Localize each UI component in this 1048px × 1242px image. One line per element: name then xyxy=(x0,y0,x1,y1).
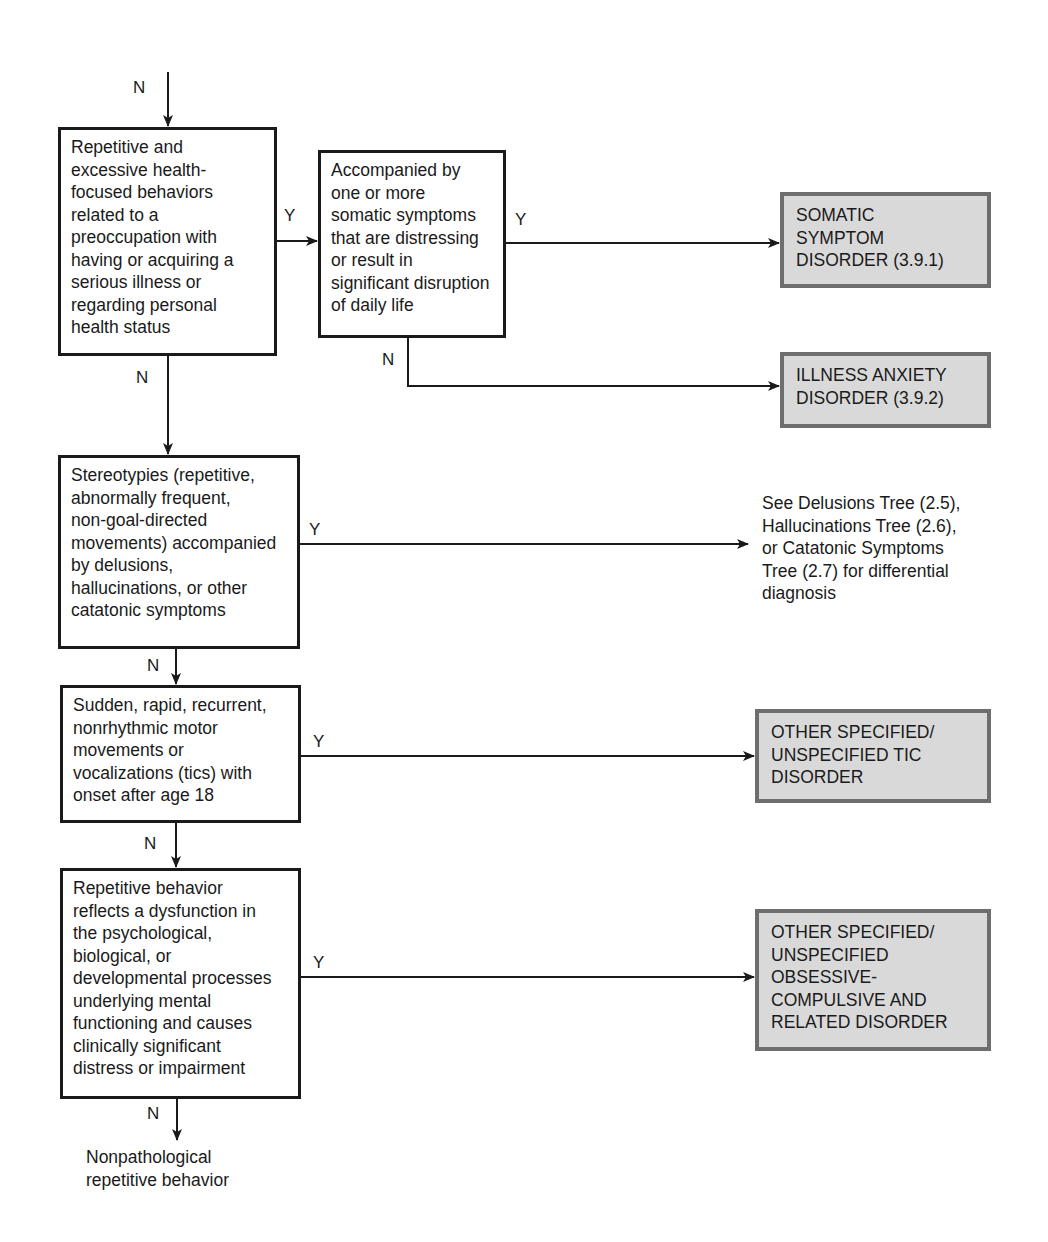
decision-stereotypies: Stereotypies (repetitive, abnormally fre… xyxy=(58,455,300,649)
edge-label-q3-no: N xyxy=(147,656,159,676)
outcome-illness-anxiety-disorder: ILLNESS ANXIETY DISORDER (3.9.2) xyxy=(780,352,991,428)
edge-label-q2-no: N xyxy=(382,350,394,370)
outcome-nonpathological-repetitive-behavior: Nonpathological repetitive behavior xyxy=(86,1146,286,1191)
decision-health-focused-behaviors: Repetitive and excessive health- focused… xyxy=(58,127,277,356)
outcome-other-tic-disorder: OTHER SPECIFIED/ UNSPECIFIED TIC DISORDE… xyxy=(755,709,991,803)
decision-somatic-symptoms: Accompanied by one or more somatic sympt… xyxy=(318,150,506,338)
edge-label-q3-yes: Y xyxy=(309,520,320,540)
outcome-other-ocd-related-disorder: OTHER SPECIFIED/ UNSPECIFIED OBSESSIVE- … xyxy=(755,909,991,1051)
edge-label-q1-yes: Y xyxy=(284,206,295,226)
edge-label-q1-no: N xyxy=(136,368,148,388)
edge-label-q4-no: N xyxy=(144,834,156,854)
decision-tics: Sudden, rapid, recurrent, nonrhythmic mo… xyxy=(60,685,301,823)
outcome-somatic-symptom-disorder: SOMATIC SYMPTOM DISORDER (3.9.1) xyxy=(780,192,991,288)
decision-repetitive-behavior-dysfunction: Repetitive behavior reflects a dysfuncti… xyxy=(60,868,301,1099)
edge-label-q4-yes: Y xyxy=(313,732,324,752)
edge-label-q5-yes: Y xyxy=(313,953,324,973)
edge-label-q2-yes: Y xyxy=(515,210,526,230)
edge-label-entry-no: N xyxy=(133,78,145,98)
edge-label-q5-no: N xyxy=(147,1104,159,1124)
q2-no-arrow xyxy=(408,337,779,386)
outcome-see-other-trees: See Delusions Tree (2.5), Hallucinations… xyxy=(762,492,1032,605)
